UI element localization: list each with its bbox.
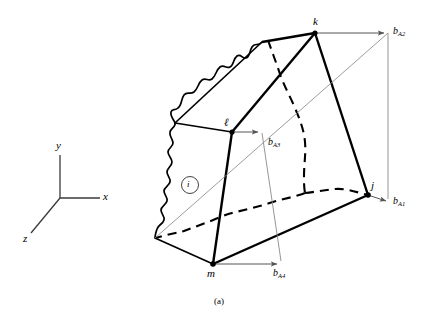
figure-container: y x z k ℓ j m i bA2 bA1 bA3 bA4 (a): [0, 0, 434, 327]
y-axis-label: y: [56, 140, 61, 151]
vector-label-b-a1: bA1: [393, 196, 405, 206]
coordinate-axes: [31, 155, 100, 233]
node-dot-k: [312, 30, 317, 35]
vector-label-b-a3-sub: A3: [273, 141, 280, 148]
figure-caption: (a): [214, 297, 224, 306]
vector-b-a1-arrow: [368, 195, 386, 201]
x-axis-label: x: [103, 191, 108, 202]
z-axis-label: z: [23, 233, 27, 244]
vector-label-b-a4: bA4: [273, 268, 285, 278]
vector-label-b-a2-sub: A2: [398, 30, 405, 37]
edge-m-to-j: [213, 195, 368, 264]
node-label-m: m: [207, 268, 215, 279]
vector-label-b-a4-sub: A4: [278, 272, 285, 279]
z-axis-line: [31, 198, 60, 233]
vector-label-b-a2: bA2: [393, 26, 405, 36]
hidden-edge-back-vertical-dashed: [268, 40, 305, 193]
vector-label-b-a3: bA3: [268, 137, 280, 147]
figure-drawing: [0, 0, 434, 327]
node-label-k: k: [313, 16, 318, 27]
node-dot-m: [210, 261, 216, 267]
node-dot-j: [365, 192, 371, 198]
vector-label-b-a1-sub: A1: [398, 200, 405, 207]
hidden-edge-back-bottom-left-dashed: [155, 193, 305, 238]
node-label-j: j: [371, 180, 374, 191]
edge-leftbottom-to-m: [155, 238, 213, 264]
node-label-l: ℓ: [224, 117, 229, 128]
element-id-circle: [182, 177, 199, 194]
edge-l-to-m: [213, 132, 232, 264]
hidden-edge-back-bottom-right-dashed: [305, 189, 368, 195]
node-dot-l: [229, 129, 234, 134]
element-id-label: i: [187, 180, 190, 189]
edge-k-to-l: [232, 33, 315, 132]
